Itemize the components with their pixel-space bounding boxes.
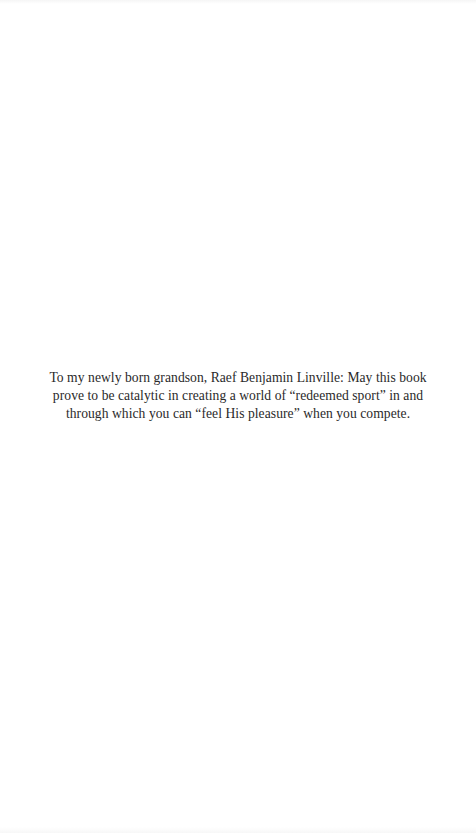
dedication-line-3: through which you can “feel His pleasure…	[20, 405, 456, 423]
dedication-text: To my newly born grandson, Raef Benjamin…	[20, 369, 456, 423]
scan-bleed-top	[0, 0, 476, 4]
dedication-line-1: To my newly born grandson, Raef Benjamin…	[20, 369, 456, 387]
dedication-line-2: prove to be catalytic in creating a worl…	[20, 387, 456, 405]
scan-bleed-bottom	[0, 827, 476, 833]
book-page: To my newly born grandson, Raef Benjamin…	[0, 0, 476, 833]
